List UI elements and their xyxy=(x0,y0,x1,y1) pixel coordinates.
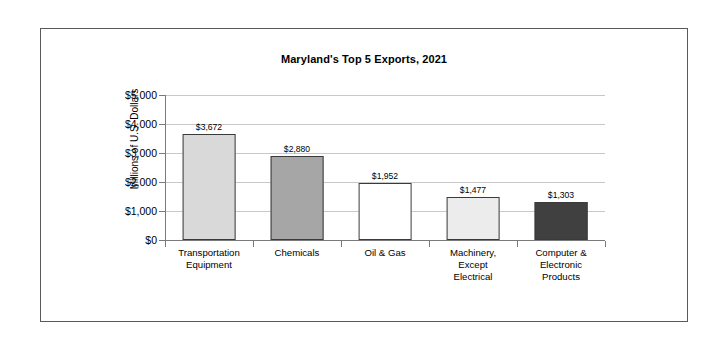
y-axis-tick xyxy=(159,124,165,125)
bar-value-label: $2,880 xyxy=(284,144,310,154)
bar-slot: $1,477 xyxy=(429,95,517,241)
bar[interactable] xyxy=(359,183,412,240)
bar-value-label: $1,303 xyxy=(548,190,574,200)
bar-value-label: $3,672 xyxy=(196,122,222,132)
x-axis-category-label: Oil & Gas xyxy=(341,247,429,283)
bar[interactable] xyxy=(271,156,324,240)
x-axis-category-label-line: Computer & xyxy=(518,247,604,259)
bar-slot: $1,952 xyxy=(341,95,429,241)
y-axis-tick xyxy=(159,211,165,212)
x-axis-category-label-line: Products xyxy=(518,271,604,283)
bar-slot: $2,880 xyxy=(253,95,341,241)
bar-slot: $1,303 xyxy=(517,95,605,241)
screenshot-canvas: Maryland's Top 5 Exports, 2021 Millions … xyxy=(0,0,726,338)
x-axis-tick xyxy=(605,241,606,247)
y-axis-tick-label: $2,000 xyxy=(97,176,157,188)
chart-figure-frame: Maryland's Top 5 Exports, 2021 Millions … xyxy=(40,28,688,322)
y-axis-tick-label: $3,000 xyxy=(97,147,157,159)
bar-value-label: $1,952 xyxy=(372,171,398,181)
bar[interactable] xyxy=(447,197,500,240)
x-axis-category-label-line: Electronic xyxy=(518,259,604,271)
x-axis-category-label-line: Equipment xyxy=(166,259,252,271)
bar-slot: $3,672 xyxy=(165,95,253,241)
bar[interactable] xyxy=(535,202,588,240)
x-axis-category-label: Machinery,ExceptElectrical xyxy=(429,247,517,283)
x-axis-category-label: Computer &ElectronicProducts xyxy=(517,247,605,283)
x-axis-category-label-line: Oil & Gas xyxy=(342,247,428,259)
y-axis-tick-label: $5,000 xyxy=(97,89,157,101)
x-axis-category-label-line: Electrical xyxy=(430,271,516,283)
y-axis-tick xyxy=(159,240,165,241)
x-axis-category-label-line: Except xyxy=(430,259,516,271)
y-axis-tick-label: $4,000 xyxy=(97,118,157,130)
y-axis-tick xyxy=(159,153,165,154)
y-axis-tick xyxy=(159,95,165,96)
bar-value-label: $1,477 xyxy=(460,185,486,195)
bar[interactable] xyxy=(183,134,236,240)
x-axis-category-label: TransportationEquipment xyxy=(165,247,253,283)
x-axis-category-label-line: Transportation xyxy=(166,247,252,259)
y-axis-tick xyxy=(159,182,165,183)
y-axis-tick-label: $0 xyxy=(97,234,157,246)
y-axis-tick-label: $1,000 xyxy=(97,205,157,217)
x-axis-category-label-line: Chemicals xyxy=(254,247,340,259)
bar-series: $3,672$2,880$1,952$1,477$1,303 xyxy=(165,95,605,241)
x-axis-category-label-line: Machinery, xyxy=(430,247,516,259)
x-axis-category-label: Chemicals xyxy=(253,247,341,283)
x-axis-category-labels: TransportationEquipmentChemicalsOil & Ga… xyxy=(165,247,605,283)
y-axis-tick-labels: $5,000$4,000$3,000$2,000$1,000$0 xyxy=(89,29,157,323)
